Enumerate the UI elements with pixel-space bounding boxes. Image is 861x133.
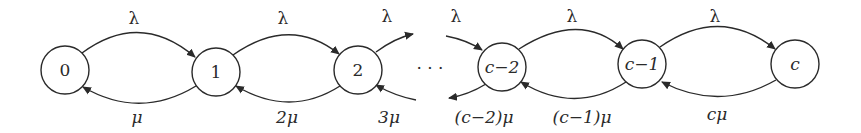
state-label: 1	[211, 62, 222, 82]
rate-label-lambda: λ	[382, 6, 393, 26]
edge-1-to-0	[83, 86, 196, 103]
edge-1-to-2	[233, 35, 339, 55]
rate-label-lambda: λ	[567, 6, 578, 26]
ellipsis: · · ·	[416, 58, 443, 78]
rate-label-lambda: λ	[278, 8, 289, 28]
state-label: 2	[353, 60, 364, 80]
state-node-0: 0	[41, 46, 89, 94]
rate-label-lambda: λ	[710, 6, 721, 26]
state-node-c-minus-1: c−1	[618, 40, 666, 88]
edge-2-to-1	[236, 86, 340, 102]
state-label: c−2	[485, 57, 520, 77]
edge-c-1-to-c-2	[521, 82, 626, 99]
state-node-c: c	[771, 40, 819, 88]
state-label: 0	[60, 60, 71, 80]
edge-ellipsis-to-c-2	[446, 36, 482, 50]
rate-label-3mu: 3μ	[378, 107, 400, 127]
rate-label-c-mu: cμ	[707, 104, 728, 124]
edge-c-1-to-c	[660, 26, 775, 49]
edge-c-2-to-ellipsis	[449, 84, 486, 98]
state-node-c-minus-2: c−2	[478, 43, 526, 91]
edge-0-to-1	[82, 32, 195, 57]
rate-label-lambda: λ	[451, 6, 462, 26]
state-node-2: 2	[334, 46, 382, 94]
rate-label-2mu: 2μ	[275, 107, 298, 127]
edge-ellipsis-to-2	[376, 85, 416, 100]
rate-label-lambda: λ	[129, 8, 140, 28]
edge-c-to-c-1	[662, 80, 776, 97]
rate-label-c-minus-2-mu: (c−2)μ	[455, 107, 514, 127]
state-node-1: 1	[192, 48, 240, 96]
edge-c-2-to-c-1	[519, 30, 623, 50]
state-transition-diagram: 0 1 2 c−2 c−1 c · · · λ λ λ λ λ λ μ 2μ 3…	[0, 0, 861, 133]
edge-2-to-ellipsis	[376, 34, 413, 52]
rate-label-c-minus-1-mu: (c−1)μ	[553, 107, 612, 127]
rate-label-mu: μ	[131, 107, 142, 127]
state-label: c	[790, 54, 800, 74]
state-label: c−1	[625, 54, 660, 74]
